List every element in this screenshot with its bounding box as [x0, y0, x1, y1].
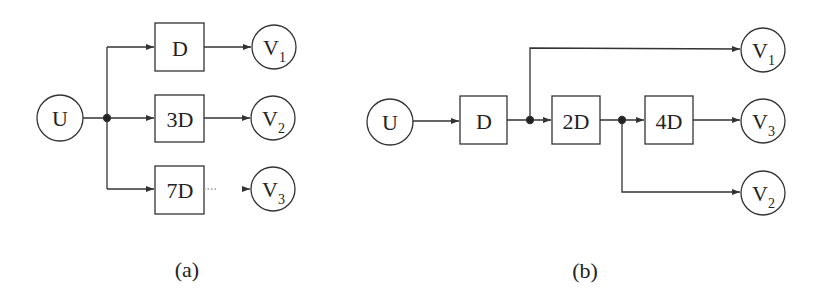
junction-dot [527, 117, 534, 124]
junction-dot [619, 117, 626, 124]
label-4d-b: 4D [656, 109, 683, 134]
caption-b: (b) [572, 258, 598, 283]
label-v1-b: V1 [752, 38, 775, 68]
label-v2-a: V2 [262, 106, 285, 136]
label-v2-b: V2 [752, 181, 775, 211]
label-2d-b: 2D [563, 109, 590, 134]
label-v1-a: V1 [263, 35, 286, 65]
label-7d-a: 7D [167, 178, 194, 203]
caption-a: (a) [175, 257, 199, 282]
diagram-canvas: U D 3D 7D (a) U D 2D 4D (b) V1 V2 V3 V1 … [0, 0, 818, 302]
label-v3-a: V3 [262, 177, 285, 207]
label-u-b: U [382, 110, 398, 135]
label-d-a: D [172, 36, 188, 61]
junction-dot [104, 115, 111, 122]
label-u-a: U [52, 106, 68, 131]
label-3d-a: 3D [167, 107, 194, 132]
label-d-b: D [476, 109, 492, 134]
label-v3-b: V3 [752, 109, 775, 139]
